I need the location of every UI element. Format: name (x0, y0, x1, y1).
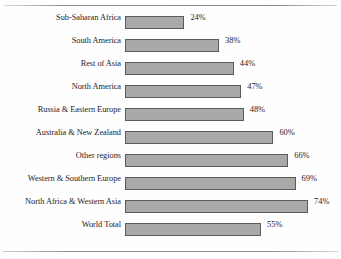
bar-category-label: Other regions (0, 149, 121, 162)
bar-value-label: 55% (267, 218, 282, 231)
bar-value-label: 38% (225, 34, 240, 47)
bar-value-label: 48% (250, 103, 265, 116)
bar-value-label: 47% (247, 80, 262, 93)
bar-value-label: 66% (294, 149, 309, 162)
bar-value-label: 60% (279, 126, 294, 139)
chart-row: Other regions66% (0, 149, 341, 172)
bar-value-label: 24% (190, 11, 205, 24)
bar-track (125, 108, 325, 121)
bar (125, 85, 241, 98)
bar-category-label: Australia & New Zealand (0, 126, 121, 139)
top-divider-rule (4, 5, 337, 6)
bar (125, 131, 273, 144)
bar-category-label: Sub-Saharan Africa (0, 11, 121, 24)
bar-category-label: Russia & Eastern Europe (0, 103, 121, 116)
bar-category-label: North Africa & Western Asia (0, 195, 121, 208)
bar (125, 108, 244, 121)
chart-row: Rest of Asia44% (0, 57, 341, 80)
bar-category-label: South America (0, 34, 121, 47)
bar-category-label: Western & Southern Europe (0, 172, 121, 185)
bar-track (125, 200, 325, 213)
bar-track (125, 131, 325, 144)
bar (125, 200, 308, 213)
chart-row: North America47% (0, 80, 341, 103)
bar-category-label: North America (0, 80, 121, 93)
chart-row: Western & Southern Europe69% (0, 172, 341, 195)
bar (125, 62, 234, 75)
chart-row: World Total55% (0, 218, 341, 241)
bar (125, 39, 219, 52)
bar-category-label: World Total (0, 218, 121, 231)
chart-row: Australia & New Zealand60% (0, 126, 341, 149)
bar-value-label: 74% (314, 195, 329, 208)
bar-track (125, 177, 325, 190)
chart-row: Sub-Saharan Africa24% (0, 11, 341, 34)
chart-row: North Africa & Western Asia74% (0, 195, 341, 218)
bottom-divider-rule (3, 251, 338, 252)
bar (125, 154, 288, 167)
bar-track (125, 223, 325, 236)
bar-track (125, 16, 325, 29)
bar-chart-plot-area: Sub-Saharan Africa24%South America38%Res… (0, 11, 341, 247)
bar-value-label: 69% (302, 172, 317, 185)
bar-category-label: Rest of Asia (0, 57, 121, 70)
bar-track (125, 62, 325, 75)
chart-row: South America38% (0, 34, 341, 57)
bar-track (125, 85, 325, 98)
bar (125, 16, 184, 29)
chart-row: Russia & Eastern Europe48% (0, 103, 341, 126)
bar (125, 177, 296, 190)
bar-value-label: 44% (240, 57, 255, 70)
bar (125, 223, 261, 236)
